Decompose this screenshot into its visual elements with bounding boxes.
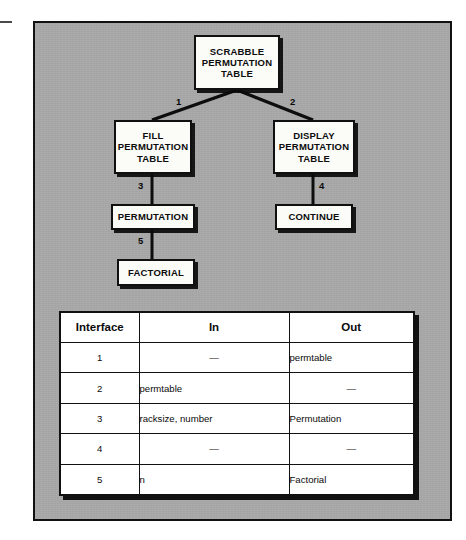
node-label-line: TABLE xyxy=(118,153,188,164)
node-label-line: TABLE xyxy=(202,68,272,79)
node-label-line: PERMUTATION xyxy=(118,141,188,152)
cell-interface: 1 xyxy=(61,343,139,373)
edge-label-4: 4 xyxy=(319,180,324,191)
edge-label-2: 2 xyxy=(290,96,295,107)
node-label-line: PERMUTATION xyxy=(279,141,349,152)
node-continue[interactable]: CONTINUE xyxy=(275,204,353,230)
edge-label-5: 5 xyxy=(138,235,143,246)
cell-in: — xyxy=(139,434,289,464)
cell-in: permtable xyxy=(139,373,289,403)
cell-interface: 2 xyxy=(61,373,139,403)
column-header-out: Out xyxy=(289,313,413,343)
edge-label-1: 1 xyxy=(176,96,181,107)
node-label-line: FACTORIAL xyxy=(128,267,184,278)
node-label-line: SCRABBLE xyxy=(202,46,272,57)
cell-interface: 5 xyxy=(61,464,139,494)
cell-out: — xyxy=(289,434,413,464)
node-label-line: DISPLAY xyxy=(279,130,349,141)
cell-interface: 4 xyxy=(61,434,139,464)
edge-label-3: 3 xyxy=(138,180,143,191)
table-row: 3 racksize, number Permutation xyxy=(61,403,413,433)
cell-in: — xyxy=(139,343,289,373)
node-scrabble-permutation-table[interactable]: SCRABBLE PERMUTATION TABLE xyxy=(194,35,280,90)
column-header-in: In xyxy=(139,313,289,343)
node-permutation[interactable]: PERMUTATION xyxy=(111,204,195,230)
cell-out: Factorial xyxy=(289,464,413,494)
structure-chart: SCRABBLE PERMUTATION TABLE 1 2 FILL PERM… xyxy=(35,23,450,303)
cell-interface: 3 xyxy=(61,403,139,433)
node-factorial[interactable]: FACTORIAL xyxy=(117,259,195,286)
table-row: 4 — — xyxy=(61,434,413,464)
cell-in: racksize, number xyxy=(139,403,289,433)
node-label-line: FILL xyxy=(118,130,188,141)
node-label-line: CONTINUE xyxy=(288,211,339,222)
table-row: 5 n Factorial xyxy=(61,464,413,494)
table-header-row: Interface In Out xyxy=(61,313,413,343)
figure-frame: SCRABBLE PERMUTATION TABLE 1 2 FILL PERM… xyxy=(33,21,452,521)
cell-out: permtable xyxy=(289,343,413,373)
node-display-permutation-table[interactable]: DISPLAY PERMUTATION TABLE xyxy=(273,120,355,174)
node-label-line: PERMUTATION xyxy=(202,57,272,68)
table-row: 1 — permtable xyxy=(61,343,413,373)
node-fill-permutation-table[interactable]: FILL PERMUTATION TABLE xyxy=(114,120,192,174)
interface-table: Interface In Out 1 — permtable 2 permtab… xyxy=(61,313,413,494)
node-label-line: TABLE xyxy=(279,153,349,164)
cell-in: n xyxy=(139,464,289,494)
node-label-line: PERMUTATION xyxy=(118,211,188,222)
column-header-interface: Interface xyxy=(61,313,139,343)
interface-table-panel: Interface In Out 1 — permtable 2 permtab… xyxy=(59,311,415,496)
scan-artifact-mark xyxy=(0,21,12,23)
cell-out: — xyxy=(289,373,413,403)
cell-out: Permutation xyxy=(289,403,413,433)
table-row: 2 permtable — xyxy=(61,373,413,403)
figure-page: SCRABBLE PERMUTATION TABLE 1 2 FILL PERM… xyxy=(0,0,466,540)
